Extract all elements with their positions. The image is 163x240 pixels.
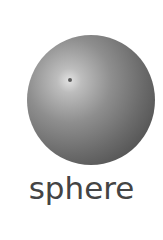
specular-highlight: [68, 78, 72, 82]
sphere-icon: [27, 35, 155, 165]
sphere-label: sphere: [0, 170, 163, 206]
